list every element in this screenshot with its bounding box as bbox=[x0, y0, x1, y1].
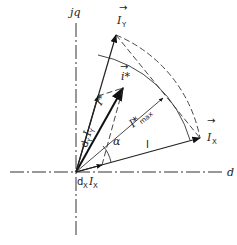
iy-label: → I Y bbox=[116, 2, 127, 29]
jq-axis-label: jq bbox=[67, 6, 80, 19]
i-star-label: → i* bbox=[120, 61, 131, 83]
svg-text:→: → bbox=[119, 2, 127, 13]
svg-text:max: max bbox=[138, 110, 155, 126]
svg-text:I*: I* bbox=[92, 92, 109, 108]
svg-text:X: X bbox=[212, 138, 217, 146]
d-axis-label: d bbox=[227, 166, 234, 179]
alpha-label: α bbox=[113, 135, 121, 148]
i-star-inner-label: I* bbox=[92, 92, 109, 108]
svg-text:X: X bbox=[83, 182, 88, 190]
svg-text:→: → bbox=[207, 115, 215, 126]
svg-text:Y: Y bbox=[121, 21, 127, 29]
dx-ix-label: d X I X bbox=[77, 175, 98, 190]
segment-i-label: I bbox=[146, 139, 149, 150]
phasor-diagram: d jq α I → I Y → I X → i* I* max I* bbox=[0, 0, 237, 245]
svg-text:X: X bbox=[93, 182, 98, 190]
svg-text:i*: i* bbox=[121, 70, 131, 83]
inner-arc bbox=[98, 55, 190, 140]
ix-label: → I X bbox=[206, 115, 217, 146]
